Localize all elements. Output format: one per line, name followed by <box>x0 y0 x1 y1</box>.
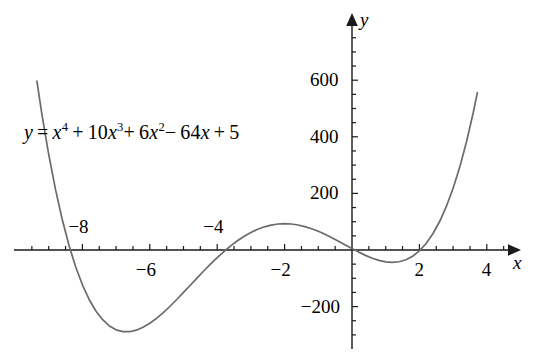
equation-term2-coef: 10 <box>88 121 108 143</box>
equation-term4-base: x <box>201 121 210 143</box>
equation-term1-base: x <box>53 121 62 143</box>
y-tick-label: −200 <box>301 297 340 316</box>
equation-equals: = <box>37 121 48 143</box>
x-tick-label: −2 <box>271 260 291 279</box>
equation-op3: − <box>165 121 176 143</box>
axes-group <box>14 13 521 349</box>
function-curve <box>37 81 477 332</box>
y-axis-label: y <box>360 10 368 29</box>
equation-term4-coef: 64 <box>180 121 200 143</box>
figure-canvas: y=x4+10x3+6x2−64x+5 x y −8−6−4−224−20020… <box>0 0 548 359</box>
x-axis-ticks <box>32 244 504 250</box>
equation-const: 5 <box>229 121 239 143</box>
equation-op1: + <box>72 121 83 143</box>
equation-op4: + <box>214 121 225 143</box>
equation-term2-base: x <box>108 121 117 143</box>
equation-term3-base: x <box>149 121 158 143</box>
y-tick-label: 400 <box>310 127 339 146</box>
equation-op2: + <box>124 121 135 143</box>
y-axis-ticks <box>352 38 358 335</box>
x-tick-label: −8 <box>68 217 88 236</box>
plot-svg <box>0 0 548 359</box>
equation-term1-exp: 4 <box>62 120 69 134</box>
equation-term3-coef: 6 <box>139 121 149 143</box>
equation-lhs: y <box>24 121 33 143</box>
equation-annotation: y=x4+10x3+6x2−64x+5 <box>24 122 240 142</box>
x-tick-label: −4 <box>203 217 223 236</box>
x-tick-label: −6 <box>136 260 156 279</box>
x-axis-label: x <box>513 253 521 272</box>
x-tick-label: 2 <box>414 260 424 279</box>
y-tick-label: 200 <box>310 183 339 202</box>
x-tick-label: 4 <box>482 260 492 279</box>
y-tick-label: 600 <box>310 70 339 89</box>
y-axis-arrowhead <box>346 13 358 26</box>
